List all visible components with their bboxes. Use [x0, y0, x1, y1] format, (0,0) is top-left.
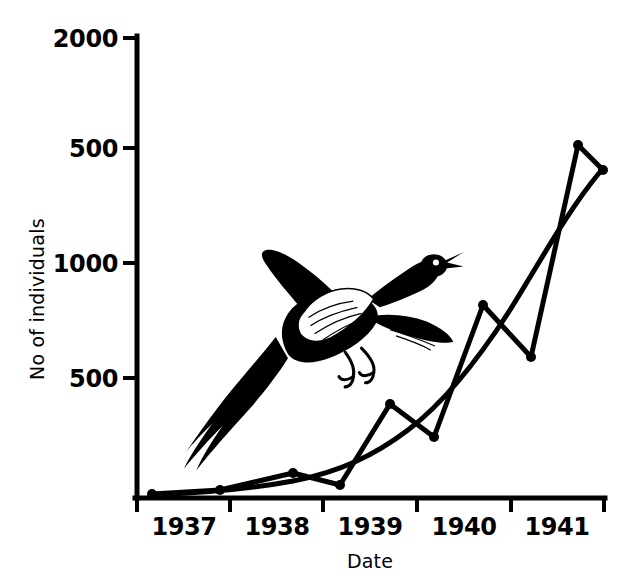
- pheasant-eye: [433, 259, 439, 265]
- series-smoothed-trend-line: [152, 172, 600, 495]
- y-tick-label-2: 1000: [53, 250, 118, 278]
- pheasant-legs: [339, 348, 374, 387]
- data-point-marker: [335, 480, 345, 490]
- y-axis-title-group: No of individuals: [26, 218, 48, 380]
- x-tick-label-1937: 1937: [151, 513, 216, 541]
- pheasant-illustration: [184, 250, 463, 471]
- data-point-marker: [429, 432, 439, 442]
- x-tick-label-1941: 1941: [524, 513, 589, 541]
- figure-container: 2000 500 1000 500 No of individuals 1937…: [0, 0, 637, 588]
- data-point-marker: [215, 485, 225, 495]
- y-tick-label-1: 500: [69, 135, 118, 163]
- y-tick-label-3: 500: [69, 365, 118, 393]
- x-axis-tick-labels: 1937 1938 1939 1940 1941: [151, 513, 589, 541]
- data-point-marker: [598, 165, 608, 175]
- line-chart: 2000 500 1000 500 No of individuals 1937…: [0, 0, 637, 588]
- x-tick-label-1940: 1940: [431, 513, 496, 541]
- data-point-marker: [288, 468, 298, 478]
- data-point-marker: [147, 489, 157, 499]
- pheasant-tail: [184, 337, 288, 471]
- data-point-marker: [478, 300, 488, 310]
- x-tick-label-1939: 1939: [337, 513, 402, 541]
- pheasant-head: [421, 254, 448, 276]
- data-point-marker: [526, 352, 536, 362]
- pheasant-beak: [445, 252, 463, 268]
- y-tick-label-0: 2000: [53, 25, 118, 53]
- y-axis-title: No of individuals: [26, 218, 48, 380]
- x-tick-label-1938: 1938: [244, 513, 309, 541]
- y-axis-tick-labels: 2000 500 1000 500: [53, 25, 118, 393]
- x-axis-title: Date: [347, 550, 393, 572]
- pheasant-wing-far: [374, 315, 454, 343]
- data-point-marker: [573, 140, 583, 150]
- data-point-marker: [385, 399, 395, 409]
